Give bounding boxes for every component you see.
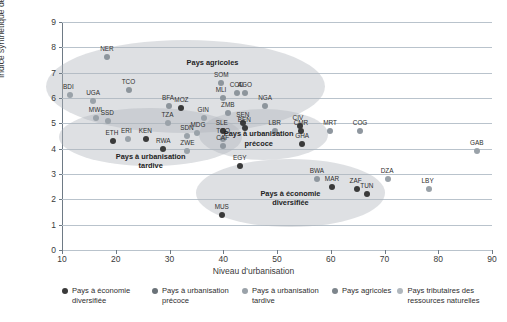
legend-item[interactable]: Pays à économie diversifiée (62, 286, 146, 307)
y-tick-mark (59, 22, 62, 23)
legend-label: Pays à urbanisation tardive (252, 286, 326, 307)
x-tick-mark (170, 250, 171, 254)
data-point (357, 128, 363, 134)
x-tick-label: 50 (262, 254, 292, 264)
data-point-label: BFA (162, 95, 174, 101)
data-point-label: TZA (161, 112, 173, 118)
y-tick-label: 5 (38, 119, 56, 128)
data-point (314, 176, 320, 182)
data-point-label: MAR (325, 176, 339, 182)
data-point-label: TCO (122, 79, 136, 85)
data-point (426, 186, 432, 192)
data-point-label: BWA (310, 168, 324, 174)
legend-item[interactable]: Pays à urbanisation précoce (152, 286, 236, 307)
data-point (234, 90, 240, 96)
legend-dot-icon (332, 288, 338, 294)
y-tick-label: 7 (38, 69, 56, 78)
x-tick-label: 70 (370, 254, 400, 264)
legend-label: Pays à urbanisation précoce (162, 286, 236, 307)
data-point-label: ZWE (180, 140, 194, 146)
data-point (160, 146, 166, 152)
gridline (62, 22, 492, 23)
y-tick-label: 2 (38, 195, 56, 204)
data-point (220, 95, 226, 101)
data-point-label: BEN (238, 117, 251, 123)
data-point (327, 128, 333, 134)
data-point-label: GAB (470, 140, 484, 146)
data-point-label: MUS (215, 204, 229, 210)
data-point-label: LBY (422, 178, 434, 184)
y-tick-mark (59, 73, 62, 74)
data-point-label: SSD (101, 110, 114, 116)
x-tick-label: 30 (155, 254, 185, 264)
scatter-chart: Indice synthétique de fécondité Niveau d… (0, 0, 507, 322)
data-point-label: KEN (139, 128, 152, 134)
chart-legend: Pays à économie diversifiéePays à urbani… (62, 286, 502, 307)
data-point-label: UGA (86, 90, 100, 96)
x-tick-mark (223, 250, 224, 254)
legend-item[interactable]: Pays tributaires des ressources naturell… (397, 286, 481, 307)
data-point-label: BDI (63, 84, 74, 90)
y-tick-label: 4 (38, 145, 56, 154)
data-point-label: AGO (238, 82, 252, 88)
data-point (218, 80, 224, 86)
y-tick-mark (59, 149, 62, 150)
data-point-label: CMR (294, 120, 309, 126)
data-point (219, 212, 225, 218)
data-point (166, 103, 172, 109)
legend-label: Pays tributaires des ressources naturell… (407, 286, 481, 307)
legend-item[interactable]: Pays agricoles (332, 286, 391, 296)
data-point-label: TUN (360, 183, 373, 189)
data-point-label: MLI (216, 87, 227, 93)
x-tick-mark (331, 250, 332, 254)
data-point (385, 176, 391, 182)
data-point-label: MRT (323, 120, 337, 126)
data-point (90, 98, 96, 104)
data-point-label: MDG (190, 122, 205, 128)
data-point (474, 148, 480, 154)
cluster-annotation: Pays à économie diversifiée (254, 189, 326, 208)
y-tick-label: 9 (38, 18, 56, 27)
data-point-label: EGY (233, 155, 247, 161)
y-tick-mark (59, 123, 62, 124)
x-tick-label: 20 (101, 254, 131, 264)
x-tick-label: 80 (423, 254, 453, 264)
x-tick-mark (277, 250, 278, 254)
data-point (262, 103, 268, 109)
legend-item[interactable]: Pays à urbanisation tardive (242, 286, 326, 307)
data-point (299, 141, 305, 147)
x-tick-mark (385, 250, 386, 254)
y-tick-mark (59, 98, 62, 99)
x-tick-mark (438, 250, 439, 254)
x-tick-label: 90 (477, 254, 507, 264)
y-tick-label: 6 (38, 94, 56, 103)
legend-dot-icon (397, 288, 403, 294)
y-tick-mark (59, 47, 62, 48)
plot-area: ETHKENRWAMOZSENBENSLECIVCMRGHAEGYMARZAFT… (62, 22, 492, 250)
data-point (125, 136, 131, 142)
legend-label: Pays à économie diversifiée (72, 286, 146, 307)
x-tick-label: 60 (316, 254, 346, 264)
y-axis-title: Indice synthétique de fécondité (0, 0, 6, 78)
data-point-label: ETH (106, 130, 119, 136)
cluster-annotation: Pays à urbanisation tardive (115, 152, 187, 171)
data-point-label: COG (353, 120, 368, 126)
x-tick-mark (62, 250, 63, 254)
y-tick-label: 3 (38, 170, 56, 179)
data-point-label: GHA (295, 133, 309, 139)
data-point-label: GIN (197, 107, 208, 113)
y-tick-mark (59, 225, 62, 226)
y-tick-label: 8 (38, 43, 56, 52)
data-point (110, 138, 116, 144)
data-point-label: DZA (381, 168, 394, 174)
legend-dot-icon (62, 288, 68, 294)
data-point (354, 186, 360, 192)
data-point (143, 136, 149, 142)
data-point-label: RWA (156, 138, 171, 144)
x-tick-mark (116, 250, 117, 254)
x-tick-label: 10 (47, 254, 77, 264)
y-tick-label: 1 (38, 221, 56, 230)
cluster-annotation: Pays agricoles (177, 58, 249, 67)
x-tick-mark (492, 250, 493, 254)
data-point (329, 184, 335, 190)
